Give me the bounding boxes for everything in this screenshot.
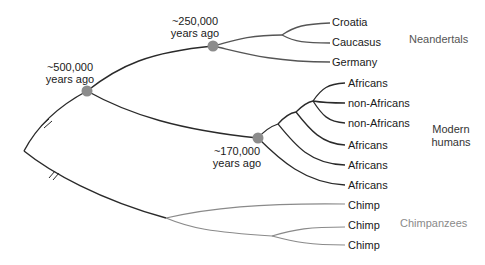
branch-500k-to-250k bbox=[87, 46, 213, 91]
group-label-chimpanzees: Chimpanzees bbox=[400, 217, 467, 230]
leaf-chimp-2: Chimp bbox=[348, 219, 380, 231]
leaf-chimp-3: Chimp bbox=[348, 239, 380, 251]
node-label-250k: ~250,000 years ago bbox=[165, 15, 225, 39]
branch-root-to-500k bbox=[24, 91, 87, 151]
leaf-africans-3: Africans bbox=[348, 159, 388, 171]
node-dot-500k bbox=[82, 86, 93, 97]
human-branches bbox=[258, 83, 345, 185]
node-label-250k-line1: ~250,000 bbox=[165, 15, 225, 27]
leaf-non-africans-2: non-Africans bbox=[348, 117, 410, 129]
group-label-neandertals: Neandertals bbox=[409, 33, 468, 46]
leaf-croatia: Croatia bbox=[332, 16, 367, 28]
node-label-500k-line2: years ago bbox=[40, 73, 100, 85]
leaf-africans-2: Africans bbox=[348, 139, 388, 151]
node-label-170k-line1: ~170,000 bbox=[207, 145, 267, 157]
node-label-250k-line2: years ago bbox=[165, 27, 225, 39]
leaf-africans-4: Africans bbox=[348, 179, 388, 191]
leaf-germany: Germany bbox=[332, 56, 377, 68]
branch-root-to-chimp bbox=[24, 151, 166, 218]
node-label-170k: ~170,000 years ago bbox=[207, 145, 267, 169]
node-label-500k-line1: ~500,000 bbox=[40, 61, 100, 73]
leaf-chimp-1: Chimp bbox=[348, 199, 380, 211]
break-mark-lower bbox=[49, 171, 59, 180]
neandertal-branches bbox=[213, 23, 330, 62]
node-dot-250k bbox=[208, 41, 219, 52]
leaf-non-africans-1: non-Africans bbox=[348, 97, 410, 109]
node-label-500k: ~500,000 years ago bbox=[40, 61, 100, 85]
group-label-modern-humans-line1: Modern bbox=[425, 123, 477, 136]
leaf-caucasus: Caucasus bbox=[332, 36, 381, 48]
branch-500k-to-170k bbox=[87, 91, 258, 138]
leaf-africans-1: Africans bbox=[348, 77, 388, 89]
node-dot-170k bbox=[253, 133, 264, 144]
node-label-170k-line2: years ago bbox=[207, 157, 267, 169]
group-label-modern-humans-line2: humans bbox=[425, 136, 477, 149]
group-label-modern-humans: Modern humans bbox=[425, 123, 477, 149]
chimp-branches bbox=[166, 204, 345, 245]
